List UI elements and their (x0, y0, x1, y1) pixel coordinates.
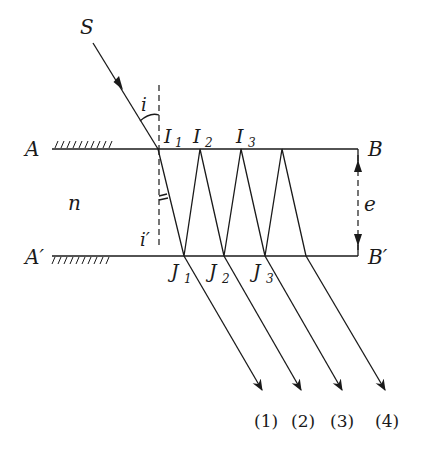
label-angle-i: i (141, 94, 147, 115)
label-output-2: (2) (291, 411, 315, 431)
thin-film-diagram: S i i′ A A′ B B′ n e I 1 I 2 I 3 J 1 J 2… (0, 0, 421, 450)
svg-text:1: 1 (184, 272, 192, 286)
label-I3: I 3 (235, 125, 256, 150)
svg-text:J: J (249, 260, 262, 282)
label-B: B (367, 137, 383, 161)
svg-text:3: 3 (266, 272, 274, 286)
label-thickness-e: e (364, 192, 376, 216)
angle-i-arc (140, 114, 159, 121)
thickness-arrow-down-icon (354, 234, 362, 246)
label-A-prime: A′ (23, 245, 44, 269)
svg-text:I: I (235, 125, 244, 147)
label-output-1: (1) (254, 411, 278, 431)
svg-text:1: 1 (175, 136, 183, 150)
label-A: A (23, 137, 39, 161)
label-angle-i-prime: i′ (140, 229, 150, 250)
label-I1: I 1 (163, 125, 183, 150)
angle-i-prime-mark (159, 194, 168, 200)
internal-reflection-path (158, 149, 306, 256)
label-index-n: n (68, 191, 81, 215)
label-output-4: (4) (375, 411, 399, 431)
bottom-hatch (52, 257, 109, 264)
svg-text:J: J (167, 260, 180, 282)
svg-text:J: J (205, 260, 218, 282)
output-ray-4 (306, 256, 385, 390)
label-output-3: (3) (330, 411, 354, 431)
label-J2: J 2 (205, 260, 230, 286)
svg-text:2: 2 (221, 272, 230, 286)
incident-ray (93, 43, 158, 149)
svg-text:I: I (192, 125, 201, 147)
thickness-arrow-up-icon (354, 160, 362, 172)
label-I2: I 2 (192, 125, 213, 150)
svg-text:3: 3 (248, 136, 256, 150)
top-hatch (55, 141, 112, 148)
svg-text:I: I (163, 125, 172, 147)
label-B-prime: B′ (367, 245, 388, 269)
label-source: S (80, 15, 94, 39)
output-ray-2 (224, 256, 301, 390)
svg-text:2: 2 (204, 136, 213, 150)
output-ray-3 (265, 256, 342, 390)
